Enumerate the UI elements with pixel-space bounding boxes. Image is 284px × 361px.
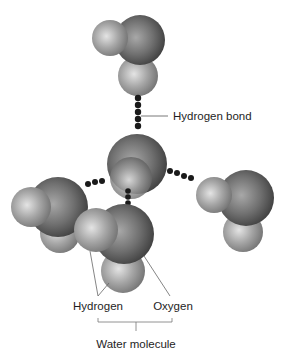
water-hydrogen-bond-diagram: Hydrogen bond [0,0,284,361]
hydrogen-bond-front [125,188,131,206]
water-molecule-label: Water molecule [96,338,175,350]
hydrogen-atom [110,157,152,199]
hydrogen-label: Hydrogen [73,300,123,312]
hydrogen-atom [92,20,128,56]
water-molecule-center [107,134,167,199]
hydrogen-bond-top [135,95,141,129]
water-molecule-front [74,204,154,293]
hydrogen-bond-right [167,168,194,181]
oxygen-label: Oxygen [153,300,193,312]
hydrogen-bond-left [85,178,105,187]
water-molecule-left [11,177,88,253]
water-molecule-top [92,15,165,96]
hydrogen-atom [74,208,118,252]
water-molecule-bracket [98,318,172,331]
hydrogen-bond-label: Hydrogen bond [173,110,252,122]
water-molecule-right [196,170,274,252]
hydrogen-atom [11,187,51,227]
hydrogen-atom [196,177,232,213]
